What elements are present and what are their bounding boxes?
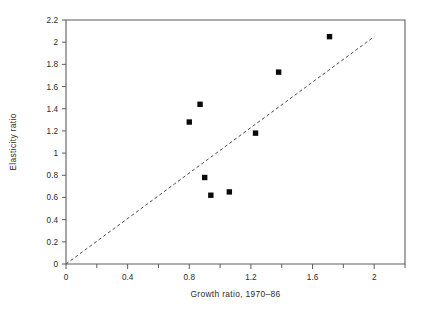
- y-tick-label: 1.4: [47, 105, 59, 114]
- data-point-marker: [253, 130, 258, 135]
- y-axis-title: Elasticity ratio: [8, 113, 18, 170]
- y-tick-label: 0.6: [47, 193, 59, 202]
- reference-line: [66, 37, 374, 264]
- y-tick-label: 0.4: [47, 216, 59, 225]
- y-tick-label: 1.8: [47, 60, 59, 69]
- y-axis-tick-marks: [62, 20, 66, 264]
- x-tick-label: 0.4: [122, 273, 134, 282]
- x-axis-title: Growth ratio, 1970–86: [190, 289, 280, 299]
- x-tick-label: 0: [64, 273, 69, 282]
- x-axis-tick-labels: 00.40.81.21.62: [64, 273, 377, 282]
- data-point-marker: [187, 119, 192, 124]
- y-tick-label: 2: [53, 38, 58, 47]
- y-axis-tick-labels: 00.20.40.60.811.21.41.61.822.2: [47, 16, 59, 269]
- y-tick-label: 0.2: [47, 238, 59, 247]
- y-tick-label: 2.2: [47, 16, 59, 25]
- data-point-marker: [227, 189, 232, 194]
- x-tick-label: 0.8: [184, 273, 196, 282]
- y-tick-label: 1.2: [47, 127, 59, 136]
- data-point-group: [187, 34, 333, 198]
- x-tick-label: 1.6: [307, 273, 319, 282]
- scatter-chart-figure: 00.20.40.60.811.21.41.61.822.2 00.40.81.…: [0, 0, 427, 311]
- data-point-marker: [276, 69, 281, 74]
- data-point-marker: [327, 34, 332, 39]
- x-tick-label: 2: [372, 273, 377, 282]
- y-tick-label: 0: [53, 260, 58, 269]
- chart-canvas: 00.20.40.60.811.21.41.61.822.2 00.40.81.…: [0, 0, 427, 311]
- y-tick-label: 1: [53, 149, 58, 158]
- data-point-marker: [208, 193, 213, 198]
- y-tick-label: 1.6: [47, 83, 59, 92]
- y-tick-label: 0.8: [47, 171, 59, 180]
- data-point-marker: [202, 175, 207, 180]
- data-point-marker: [197, 102, 202, 107]
- x-tick-label: 1.2: [245, 273, 257, 282]
- plot-frame: [66, 20, 405, 264]
